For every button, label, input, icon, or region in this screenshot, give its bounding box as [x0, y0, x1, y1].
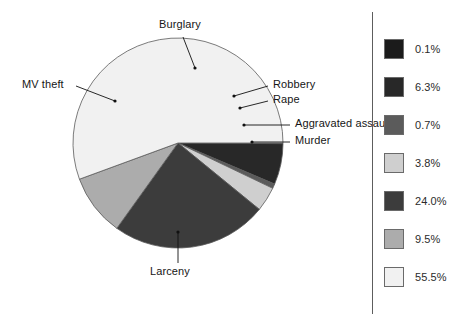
legend-panel: 0.1%6.3%0.7%3.8%24.0%9.5%55.5% [362, 0, 462, 326]
legend-item[interactable]: 6.3% [384, 68, 462, 106]
legend-item[interactable]: 3.8% [384, 144, 462, 182]
pie-svg [0, 0, 362, 326]
leader-dot-larceny [176, 230, 179, 233]
leader-dot-aggravated-assault [242, 123, 245, 126]
legend-item[interactable]: 9.5% [384, 220, 462, 258]
legend-divider [372, 12, 373, 314]
legend-item[interactable]: 24.0% [384, 182, 462, 220]
pie-label-mv-theft: MV theft [22, 78, 64, 90]
pie-label-larceny: Larceny [150, 265, 190, 277]
legend-item[interactable]: 0.7% [384, 106, 462, 144]
pie-plot-area: Burglary MV theft Robbery Rape Aggravate… [0, 0, 362, 326]
leader-dot-robbery [232, 94, 235, 97]
legend-item-label: 0.1% [415, 43, 440, 55]
pie-label-murder: Murder [295, 134, 330, 146]
legend-swatch-icon [384, 115, 404, 135]
leader-dot-burglary [193, 66, 196, 69]
legend-item-label: 3.8% [415, 157, 440, 169]
leader-dot-mv-theft [113, 99, 116, 102]
pie-chart-figure: Burglary MV theft Robbery Rape Aggravate… [0, 0, 462, 326]
legend-swatch-icon [384, 39, 404, 59]
legend-item-label: 24.0% [415, 195, 447, 207]
legend-item[interactable]: 0.1% [384, 30, 462, 68]
legend-swatch-icon [384, 267, 404, 287]
legend-item-label: 6.3% [415, 81, 440, 93]
leader-dot-murder [250, 140, 253, 143]
legend-item-label: 9.5% [415, 233, 440, 245]
legend-swatch-icon [384, 153, 404, 173]
legend-swatch-icon [384, 191, 404, 211]
leader-dot-rape [238, 106, 241, 109]
legend-item-label: 0.7% [415, 119, 440, 131]
pie-label-robbery: Robbery [273, 78, 315, 90]
legend-swatch-icon [384, 229, 404, 249]
legend-item-label: 55.5% [415, 271, 447, 283]
pie-label-rape: Rape [273, 93, 300, 105]
legend-item[interactable]: 55.5% [384, 258, 462, 296]
legend-swatch-icon [384, 77, 404, 97]
legend-list: 0.1%6.3%0.7%3.8%24.0%9.5%55.5% [384, 30, 462, 296]
pie-label-burglary: Burglary [159, 18, 201, 30]
